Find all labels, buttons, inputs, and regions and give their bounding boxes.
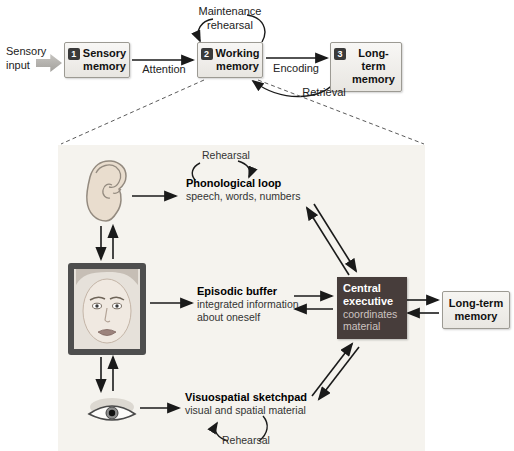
face-portrait-icon: [68, 263, 146, 355]
visuospatial-title: Visuospatial sketchpad: [185, 391, 345, 404]
eye-icon: [86, 397, 138, 427]
working-memory-label: Working memory: [216, 47, 260, 73]
step-1-badge: 1: [68, 48, 80, 60]
retrieval-label: Retrieval: [294, 86, 354, 100]
long-term-memory-side-label: Long-term memory: [447, 297, 505, 323]
maintenance-rehearsal-label: Maintenance rehearsal: [188, 5, 272, 33]
central-executive-desc: coordinates material: [343, 308, 402, 333]
phonological-rehearsal-label: Rehearsal: [202, 149, 250, 162]
visuospatial-desc: visual and spatial material: [185, 404, 345, 417]
sensory-memory-label: Sensory memory: [83, 47, 126, 73]
phonological-loop-title: Phonological loop: [186, 177, 336, 190]
encoding-label: Encoding: [266, 62, 326, 76]
phonological-loop-block: Phonological loop speech, words, numbers: [186, 177, 336, 203]
step-3-badge: 3: [334, 48, 346, 60]
visuospatial-rehearsal-label: Rehearsal: [222, 434, 270, 447]
working-memory-diagram: Sensory input 1 Sensory memory 2 Working…: [0, 0, 514, 451]
attention-label: Attention: [134, 63, 194, 77]
central-executive-box: Central executive coordinates material: [337, 277, 407, 339]
long-term-memory-box: 3 Long-term memory: [330, 42, 402, 92]
zoom-dashed-left: [61, 80, 204, 144]
sensory-memory-box: 1 Sensory memory: [64, 42, 130, 78]
long-term-memory-side-box: Long-term memory: [442, 291, 510, 329]
central-executive-title: Central executive: [343, 282, 402, 308]
episodic-buffer-desc: integrated information about oneself: [197, 298, 305, 323]
long-term-memory-label: Long-term memory: [349, 47, 398, 87]
phonological-loop-desc: speech, words, numbers: [186, 190, 336, 203]
step-2-badge: 2: [201, 48, 213, 60]
episodic-buffer-title: Episodic buffer: [197, 285, 305, 298]
working-memory-box: 2 Working memory: [197, 42, 263, 78]
visuospatial-block: Visuospatial sketchpad visual and spatia…: [185, 391, 345, 417]
ear-icon: [82, 159, 130, 223]
episodic-buffer-block: Episodic buffer integrated information a…: [197, 285, 305, 323]
